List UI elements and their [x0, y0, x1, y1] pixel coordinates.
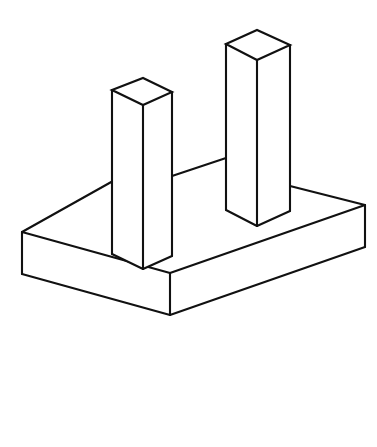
cross-bar-top-edge: [172, 158, 226, 176]
base-plate: [22, 167, 365, 315]
right-column-right-face: [257, 45, 290, 226]
left-column-right-face: [143, 92, 172, 269]
drawing-canvas: [0, 0, 377, 447]
left-column: [112, 78, 172, 269]
cross-bar: [172, 158, 226, 176]
isometric-figure: [0, 0, 377, 447]
right-column-left-face: [226, 44, 257, 226]
left-column-left-face: [112, 90, 143, 269]
right-column: [226, 30, 290, 226]
